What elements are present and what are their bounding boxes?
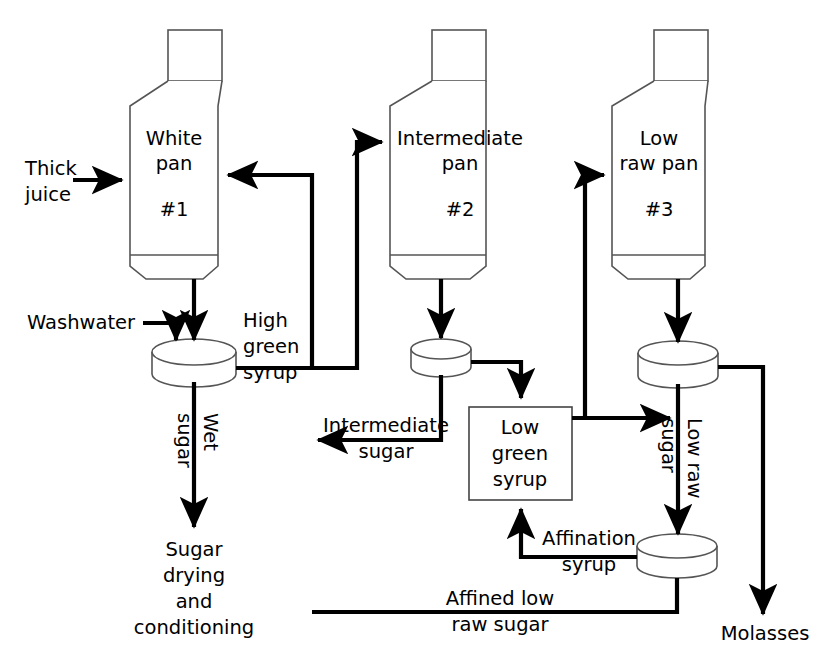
centrifuge-1-top [152,339,236,365]
label-intermediate-sugar-line2: sugar [359,440,415,463]
process-flow-diagram: White pan #1 Intermediate pan #2 Low raw… [0,0,834,663]
low-raw-pan-number: #3 [645,198,674,221]
centrifuge-2[interactable] [411,339,471,377]
low-raw-pan-label-line1: Low [640,127,678,150]
label-sugar-drying-line4: conditioning [134,616,254,639]
intermediate-pan-neck [432,30,486,81]
label-washwater: Washwater [27,311,136,334]
label-intermediate-sugar-line1: Intermediate [323,414,449,437]
label-low-raw-sugar-line1: Low raw [683,418,706,499]
label-high-green-syrup-line3: syrup [243,361,297,384]
low-green-syrup-line1: Low [501,416,539,439]
label-molasses: Molasses [721,622,810,645]
white-pan-number: #1 [160,198,189,221]
label-wet-sugar-line1: Wet [199,413,222,451]
label-low-raw-sugar-line2: sugar [657,418,680,474]
label-affination-syrup-line1: Affination [542,527,636,550]
low-green-syrup-line2: green [492,442,548,465]
label-affination-syrup-line2: syrup [562,553,616,576]
label-high-green-syrup-line1: High [243,309,288,332]
label-wet-sugar-line2: sugar [173,413,196,469]
centrifuge-3[interactable] [638,341,718,388]
pipe-washwater [143,323,176,340]
affination-centrifuge-top [637,534,717,558]
label-high-green-syrup-line2: green [243,335,299,358]
intermediate-pan-number: #2 [446,198,475,221]
white-pan-label-line1: White [146,127,203,150]
low-raw-pan-body [612,81,708,279]
label-sugar-drying-line3: and [176,590,213,613]
intermediate-pan-label-line2: pan [442,152,479,175]
affination-centrifuge[interactable] [637,534,717,578]
pipe-molasses [718,367,763,614]
label-sugar-drying-line2: drying [163,564,225,587]
low-raw-pan-label-line2: raw pan [620,152,699,175]
flow-diagram-canvas: White pan #1 Intermediate pan #2 Low raw… [0,0,834,663]
low-raw-pan-neck [654,30,708,81]
low-green-syrup-line3: syrup [493,468,547,491]
centrifuge-1[interactable] [152,339,236,387]
white-pan-neck [168,30,222,81]
white-pan-body [130,81,222,279]
pipe-high-green-syrup-to-intermediate-pan [312,142,382,368]
label-affined-low-raw-sugar-line2: raw sugar [452,613,550,636]
intermediate-pan-body [390,81,486,279]
label-sugar-drying-line1: Sugar [165,538,223,561]
label-thick-juice-line1: Thick [24,157,77,180]
centrifuge-3-top [638,341,718,365]
label-affined-low-raw-sugar-line1: Affined low [446,587,554,610]
pipe-low-green-syrup-to-low-raw-pan [572,175,604,418]
label-thick-juice-line2: juice [24,183,71,206]
centrifuge-2-top [411,339,471,359]
intermediate-pan-label-line1: Intermediate [397,127,523,150]
white-pan-label-line2: pan [156,152,193,175]
pipe-centrifuge-2-to-low-green-syrup [471,362,521,398]
